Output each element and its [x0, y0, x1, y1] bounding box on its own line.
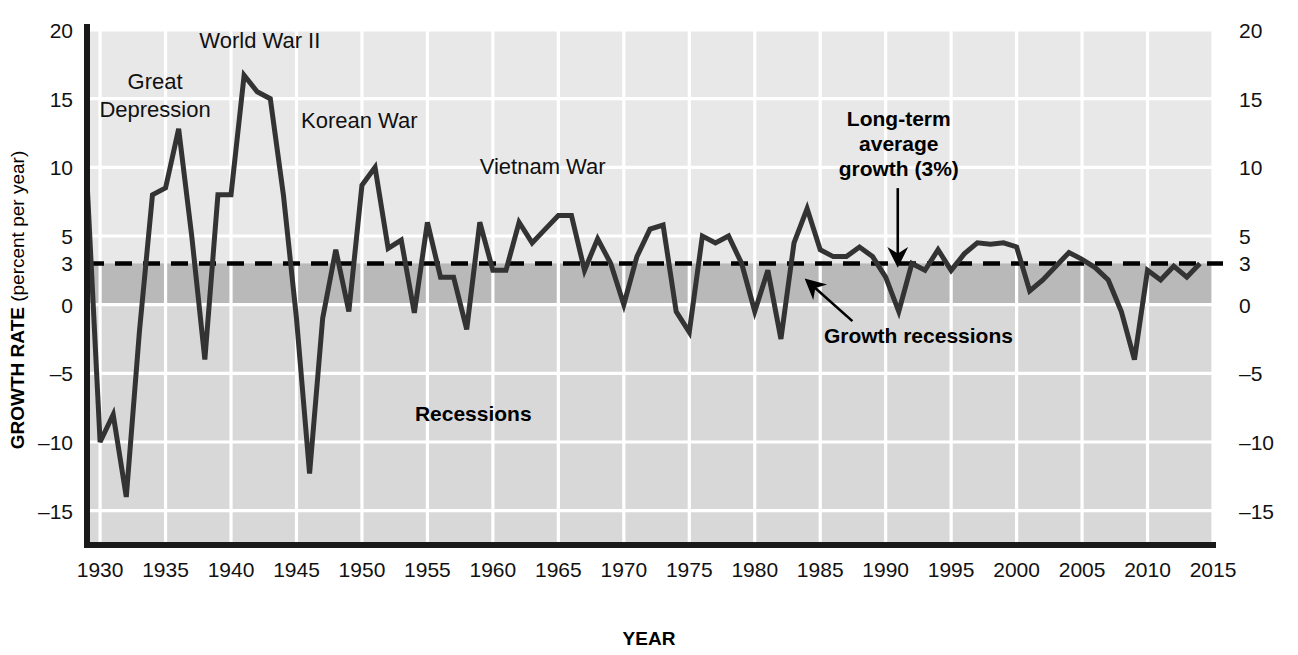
y-axis-title-sub: (percent per year) [7, 151, 28, 307]
growth-rate-line-chart: 1930193519401945195019551960196519701975… [0, 0, 1298, 655]
plot-area [87, 30, 1213, 545]
annotation-recessions: Recessions [415, 402, 532, 425]
x-tick-label: 1980 [731, 558, 778, 581]
y-tick-label-left: –15 [38, 500, 73, 523]
y-axis-title-bold: GROWTH RATE [7, 307, 28, 449]
annotation-korean-war: Korean War [301, 108, 418, 133]
y-tick-label-right: –15 [1239, 500, 1274, 523]
x-tick-label: 1935 [142, 558, 189, 581]
x-tick-label: 1970 [600, 558, 647, 581]
x-tick-label: 1950 [339, 558, 386, 581]
y-axis-title-group: GROWTH RATE (percent per year) [7, 151, 28, 449]
y-tick-label-right: 0 [1239, 294, 1251, 317]
y-tick-label-left: 10 [50, 156, 73, 179]
y-tick-label-left: 20 [50, 19, 73, 42]
x-tick-label: 1975 [666, 558, 713, 581]
x-tick-label: 1945 [273, 558, 320, 581]
annotation-growth-recessions: Growth recessions [824, 324, 1013, 347]
x-tick-label: 1985 [797, 558, 844, 581]
y-tick-label-left: –10 [38, 431, 73, 454]
x-tick-label: 2005 [1059, 558, 1106, 581]
annotation-line: Great [128, 69, 183, 94]
y-tick-label-right: –5 [1239, 362, 1262, 385]
x-tick-label: 1930 [77, 558, 124, 581]
x-axis-title: YEAR [623, 628, 676, 649]
y-tick-label-right: 10 [1239, 156, 1262, 179]
y-tick-label-left: 15 [50, 88, 73, 111]
y-tick-label-left: –5 [50, 362, 73, 385]
y-tick-label-right: 3 [1239, 252, 1251, 275]
chart-figure: 1930193519401945195019551960196519701975… [0, 0, 1298, 655]
annotation-line: growth (3%) [839, 157, 959, 180]
recession-band [87, 305, 1213, 545]
annotation-line: Korean War [301, 108, 418, 133]
annotation-line: Recessions [415, 402, 532, 425]
x-tick-label: 1955 [404, 558, 451, 581]
y-axis-title: GROWTH RATE (percent per year) [7, 151, 28, 449]
x-tick-label: 1940 [208, 558, 255, 581]
y-tick-label-left: 0 [61, 294, 73, 317]
y-tick-label-right: –10 [1239, 431, 1274, 454]
x-tick-label: 1960 [470, 558, 517, 581]
annotation-line: World War II [199, 28, 320, 53]
y-tick-label-right: 5 [1239, 225, 1251, 248]
annotation-world-war-ii: World War II [199, 28, 320, 53]
x-tick-label: 1995 [928, 558, 975, 581]
annotation-line: Vietnam War [480, 154, 606, 179]
y-tick-label-right: 15 [1239, 88, 1262, 111]
annotation-vietnam-war: Vietnam War [480, 154, 606, 179]
x-tick-label: 2015 [1190, 558, 1237, 581]
x-tick-label: 1965 [535, 558, 582, 581]
y-tick-label-left: 3 [61, 252, 73, 275]
y-tick-label-right: 20 [1239, 19, 1262, 42]
x-tick-label: 2010 [1124, 558, 1171, 581]
annotation-line: Growth recessions [824, 324, 1013, 347]
x-tick-label: 2000 [993, 558, 1040, 581]
annotation-line: Long-term [847, 107, 951, 130]
annotation-line: average [859, 132, 938, 155]
growth-recession-band [87, 263, 1213, 304]
annotation-line: Depression [99, 97, 210, 122]
x-tick-label: 1990 [862, 558, 909, 581]
y-tick-label-left: 5 [61, 225, 73, 248]
